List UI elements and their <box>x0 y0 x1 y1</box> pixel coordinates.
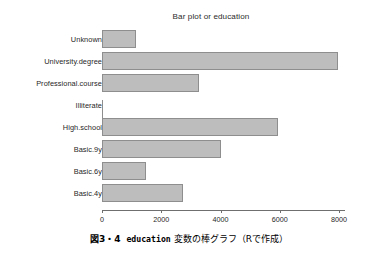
x-axis-tick <box>221 210 222 213</box>
x-axis-tick <box>102 210 103 213</box>
figure-number: 図3・4 <box>90 234 121 244</box>
x-axis-tick-label: 0 <box>100 215 104 224</box>
bar-basic-4y <box>102 184 183 202</box>
bar-basic-9y <box>102 140 221 158</box>
bar-row-illiterate: Illiterate <box>0 94 378 116</box>
figure-caption: 図3・4 education 変数の棒グラフ（Rで作成） <box>0 232 378 245</box>
y-axis-label-basic-6y: Basic.6y <box>74 167 102 176</box>
bar-rows: Unknown University.degree Professional.c… <box>0 28 378 204</box>
caption-code-word: education <box>126 234 170 244</box>
bar-row-university-degree: University.degree <box>0 50 378 72</box>
bar-track <box>102 138 348 160</box>
bar-track <box>102 28 348 50</box>
bar-track <box>102 182 348 204</box>
figure-container: Bar plot or education Unknown University… <box>0 0 378 255</box>
y-axis-label-basic-9y: Basic.9y <box>74 145 102 154</box>
x-axis-tick-label: 8000 <box>331 215 347 224</box>
x-axis-tick <box>280 210 281 213</box>
x-axis-tick <box>339 210 340 213</box>
bar-high-school <box>102 118 278 136</box>
bar-track <box>102 116 348 138</box>
illiterate-zero-baseline <box>102 100 103 122</box>
bar-row-basic-6y: Basic.6y <box>0 160 378 182</box>
bar-track <box>102 72 348 94</box>
y-axis-label-unknown: Unknown <box>71 35 102 44</box>
x-axis-tick-label: 2000 <box>153 215 169 224</box>
y-axis-label-illiterate: Illiterate <box>76 101 102 110</box>
y-axis-label-university-degree: University.degree <box>44 57 102 66</box>
bar-row-basic-9y: Basic.9y <box>0 138 378 160</box>
caption-text-tail: 変数の棒グラフ（Rで作成） <box>174 234 288 244</box>
bar-basic-6y <box>102 162 146 180</box>
x-axis-tick-label: 6000 <box>272 215 288 224</box>
x-axis-tick-label: 4000 <box>213 215 229 224</box>
bar-chart: Bar plot or education Unknown University… <box>0 0 378 228</box>
y-axis-label-basic-4y: Basic.4y <box>74 189 102 198</box>
y-axis-label-professional-course: Professional.course <box>36 79 102 88</box>
bar-row-professional-course: Professional.course <box>0 72 378 94</box>
bar-track <box>102 94 348 116</box>
bar-university-degree <box>102 52 338 70</box>
x-axis: 0 2000 4000 6000 8000 <box>102 210 345 211</box>
bar-unknown <box>102 30 136 48</box>
bar-track <box>102 50 348 72</box>
x-axis-tick <box>161 210 162 213</box>
bar-track <box>102 160 348 182</box>
bar-row-basic-4y: Basic.4y <box>0 182 378 204</box>
y-axis-label-high-school: High.school <box>63 123 102 132</box>
chart-title: Bar plot or education <box>0 12 378 21</box>
bar-row-high-school: High.school <box>0 116 378 138</box>
bar-row-unknown: Unknown <box>0 28 378 50</box>
bar-professional-course <box>102 74 199 92</box>
